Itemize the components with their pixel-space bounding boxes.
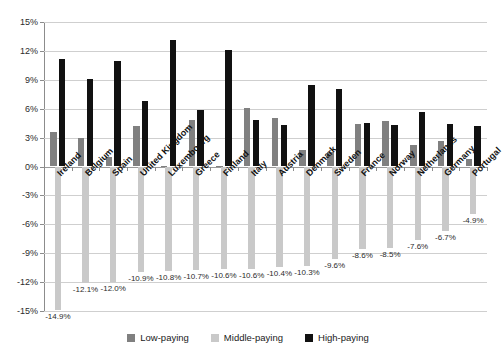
bar-high-paying — [308, 85, 314, 167]
bar-value-label: -8.5% — [374, 251, 406, 259]
y-axis-tick-mark — [40, 282, 44, 283]
bar-high-paying — [87, 79, 93, 167]
y-axis-tick-label: -3% — [0, 191, 38, 200]
y-axis-tick-mark — [40, 22, 44, 23]
bar-low-paying — [272, 118, 278, 166]
bar-high-paying — [336, 89, 342, 166]
bar-middle-paying — [165, 167, 171, 271]
y-axis-tick-mark — [40, 80, 44, 81]
bar-low-paying — [216, 166, 222, 167]
y-axis-tick-mark — [40, 138, 44, 139]
bar-middle-paying — [304, 167, 310, 266]
bar-value-label: -4.9% — [457, 217, 489, 225]
legend-item[interactable]: Low-paying — [127, 332, 189, 343]
bar-middle-paying — [110, 167, 116, 283]
bar-value-label: -12.0% — [97, 285, 129, 293]
y-axis-tick-label: -6% — [0, 220, 38, 229]
bar-value-label: -6.7% — [429, 234, 461, 242]
y-axis-tick-label: -12% — [0, 278, 38, 287]
bar-high-paying — [253, 120, 259, 166]
legend-swatch-icon — [305, 334, 313, 342]
legend-label: Middle-paying — [224, 332, 283, 343]
y-axis-tick-label: -9% — [0, 249, 38, 258]
bar-middle-paying — [138, 167, 144, 272]
bar-middle-paying — [415, 167, 421, 240]
bar-high-paying — [225, 50, 231, 167]
legend-label: High-paying — [318, 332, 369, 343]
legend-item[interactable]: Middle-paying — [211, 332, 283, 343]
bar-middle-paying — [276, 167, 282, 267]
y-axis-tick-mark — [40, 51, 44, 52]
y-axis-tick-mark — [40, 109, 44, 110]
bar-middle-paying — [221, 167, 227, 269]
bar-middle-paying — [387, 167, 393, 249]
y-axis-tick-mark — [40, 253, 44, 254]
legend-label: Low-paying — [140, 332, 189, 343]
y-axis-tick-mark — [40, 224, 44, 225]
y-axis-tick-label: 15% — [0, 18, 38, 27]
bar-value-label: -7.6% — [402, 243, 434, 251]
bar-high-paying — [114, 61, 120, 167]
bar-middle-paying — [193, 167, 199, 270]
bar-middle-paying — [248, 167, 254, 269]
x-axis-tick-mark — [44, 167, 45, 171]
y-axis-tick-label: 9% — [0, 76, 38, 85]
y-axis-tick-mark — [40, 311, 44, 312]
y-axis-tick-label: 12% — [0, 47, 38, 56]
bar-middle-paying — [55, 167, 61, 311]
bar-low-paying — [50, 132, 56, 167]
gridline — [44, 311, 487, 312]
y-axis-tick-label: 0% — [0, 163, 38, 172]
y-axis-tick-label: 3% — [0, 134, 38, 143]
bar-middle-paying — [332, 167, 338, 259]
legend-swatch-icon — [127, 334, 135, 342]
y-axis-tick-label: 6% — [0, 105, 38, 114]
bar-high-paying — [59, 59, 65, 167]
legend-swatch-icon — [211, 334, 219, 342]
bar-high-paying — [142, 101, 148, 167]
bar-value-label: -9.6% — [319, 262, 351, 270]
bar-low-paying — [78, 138, 84, 167]
bar-middle-paying — [359, 167, 365, 250]
bar-high-paying — [419, 112, 425, 167]
bar-value-label: -14.9% — [42, 313, 74, 321]
legend-item[interactable]: High-paying — [305, 332, 369, 343]
chart-legend: Low-payingMiddle-payingHigh-paying — [0, 332, 496, 343]
y-axis-tick-label: -15% — [0, 307, 38, 316]
bar-low-paying — [161, 166, 167, 167]
bar-middle-paying — [82, 167, 88, 284]
y-axis-tick-mark — [40, 195, 44, 196]
